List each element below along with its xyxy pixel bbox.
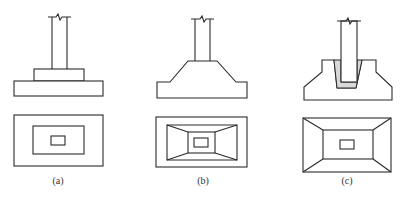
slope-edge (215, 125, 237, 132)
slope-edge (303, 118, 323, 130)
panel-a-plan (14, 115, 103, 166)
panel-a-label: (a) (52, 175, 63, 187)
base-slab (14, 81, 103, 96)
panel-c-elevation (304, 18, 392, 100)
slope-edge (215, 153, 237, 160)
panel-b: (b) (156, 16, 247, 187)
plan-step-rect (33, 126, 84, 154)
sloped-footing (157, 61, 247, 98)
panel-c-plan (303, 118, 391, 172)
slope-edge (303, 159, 323, 172)
panel-b-plan (156, 117, 247, 167)
slope-edge (167, 153, 188, 160)
plan-slope-boundary (167, 125, 237, 160)
plan-column-rect (194, 138, 208, 147)
plan-top-rect (188, 132, 215, 153)
pedestal-step (34, 69, 84, 81)
plan-outer-rect (14, 115, 103, 166)
panel-c: (c) (303, 18, 392, 187)
precast-column (341, 21, 357, 82)
plan-top-rect (323, 130, 373, 159)
panel-a: (a) (14, 14, 103, 187)
slope-edge (373, 118, 391, 130)
panel-b-elevation (157, 16, 247, 98)
panel-a-elevation (14, 14, 103, 96)
slope-edge (373, 159, 391, 172)
slope-edge (167, 125, 188, 132)
plan-column-rect (51, 136, 65, 145)
footings-diagram: (a) (b) (0, 0, 404, 205)
panel-b-label: (b) (197, 175, 209, 187)
panel-c-label: (c) (341, 175, 352, 187)
plan-socket-rect (340, 140, 354, 149)
